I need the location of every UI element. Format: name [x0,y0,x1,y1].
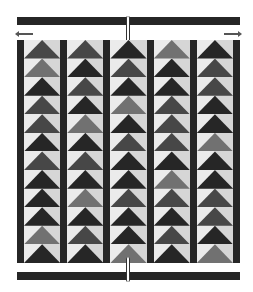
goose-triangle-icon [67,226,103,245]
goose-block [67,40,103,59]
goose-block [154,151,190,170]
goose-block [197,151,233,170]
goose-triangle-icon [67,170,103,189]
goose-triangle-icon [24,96,60,115]
goose-block [67,170,103,189]
goose-block [67,59,103,78]
bottom-center-marker-icon [126,257,130,282]
goose-triangle-icon [197,133,233,152]
goose-block [197,114,233,133]
goose-triangle-icon [110,207,146,226]
goose-block [67,151,103,170]
sashing-strip-1 [60,40,67,263]
goose-block [154,133,190,152]
goose-triangle-icon [24,226,60,245]
goose-block [154,244,190,263]
goose-block [110,151,146,170]
goose-block [154,170,190,189]
goose-block [24,151,60,170]
goose-block [24,170,60,189]
goose-block [24,40,60,59]
goose-triangle-icon [197,207,233,226]
goose-block [24,226,60,245]
goose-triangle-icon [154,189,190,208]
goose-block [24,244,60,263]
goose-block [154,59,190,78]
goose-triangle-icon [24,40,60,59]
goose-block [110,226,146,245]
goose-triangle-icon [154,59,190,78]
goose-triangle-icon [197,59,233,78]
goose-triangle-icon [110,96,146,115]
goose-block [67,77,103,96]
goose-block [110,189,146,208]
geese-column-4 [154,40,190,263]
goose-triangle-icon [24,189,60,208]
goose-triangle-icon [24,170,60,189]
goose-block [24,114,60,133]
goose-triangle-icon [67,189,103,208]
goose-triangle-icon [110,40,146,59]
goose-block [154,189,190,208]
goose-triangle-icon [110,226,146,245]
goose-block [197,207,233,226]
goose-block [67,207,103,226]
sashing-strip-2 [103,40,110,263]
goose-block [24,59,60,78]
goose-triangle-icon [67,151,103,170]
goose-block [110,40,146,59]
goose-triangle-icon [197,114,233,133]
goose-triangle-icon [154,114,190,133]
goose-block [197,189,233,208]
goose-block [67,114,103,133]
goose-triangle-icon [197,244,233,263]
goose-block [154,96,190,115]
goose-triangle-icon [154,96,190,115]
goose-block [197,40,233,59]
goose-block [67,226,103,245]
goose-block [197,170,233,189]
goose-triangle-icon [24,77,60,96]
geese-column-5 [197,40,233,263]
goose-block [154,207,190,226]
goose-triangle-icon [67,244,103,263]
goose-block [110,170,146,189]
goose-triangle-icon [154,77,190,96]
goose-triangle-icon [67,77,103,96]
arrow-left-icon [17,33,33,35]
goose-block [154,40,190,59]
goose-block [197,244,233,263]
goose-triangle-icon [197,96,233,115]
goose-triangle-icon [67,114,103,133]
goose-triangle-icon [154,226,190,245]
goose-block [67,244,103,263]
goose-triangle-icon [154,133,190,152]
quilt-grid [17,40,240,263]
sashing-strip-4 [190,40,197,263]
goose-triangle-icon [24,151,60,170]
goose-triangle-icon [24,59,60,78]
goose-block [24,133,60,152]
geese-column-1 [24,40,60,263]
goose-triangle-icon [110,189,146,208]
goose-triangle-icon [197,151,233,170]
arrow-right-icon [224,33,240,35]
goose-block [110,114,146,133]
goose-block [67,96,103,115]
goose-block [67,189,103,208]
goose-block [154,77,190,96]
geese-column-3 [110,40,146,263]
goose-triangle-icon [154,151,190,170]
goose-block [197,77,233,96]
geese-column-2 [67,40,103,263]
goose-block [67,133,103,152]
goose-triangle-icon [110,114,146,133]
goose-block [197,96,233,115]
goose-block [197,226,233,245]
sashing-strip-3 [147,40,154,263]
goose-triangle-icon [197,77,233,96]
goose-triangle-icon [197,189,233,208]
goose-block [197,59,233,78]
sashing-strip-5 [233,40,240,263]
goose-block [197,133,233,152]
